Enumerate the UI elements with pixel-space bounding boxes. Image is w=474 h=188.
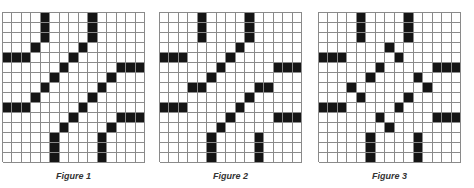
empty-cell: [347, 153, 356, 163]
filled-cell: [366, 143, 375, 153]
empty-cell: [442, 143, 451, 153]
empty-cell: [12, 83, 21, 93]
empty-cell: [385, 33, 394, 43]
empty-cell: [236, 83, 245, 93]
empty-cell: [264, 33, 273, 43]
empty-cell: [136, 23, 145, 33]
empty-cell: [236, 53, 245, 63]
empty-cell: [376, 73, 385, 83]
empty-cell: [395, 63, 404, 73]
empty-cell: [347, 93, 356, 103]
empty-cell: [31, 63, 40, 73]
empty-cell: [136, 123, 145, 133]
empty-cell: [3, 63, 12, 73]
empty-cell: [357, 53, 366, 63]
filled-cell: [3, 103, 12, 113]
empty-cell: [433, 153, 442, 163]
empty-cell: [366, 93, 375, 103]
empty-cell: [41, 43, 50, 53]
empty-cell: [22, 153, 31, 163]
empty-cell: [376, 123, 385, 133]
empty-cell: [274, 123, 283, 133]
filled-cell: [414, 153, 423, 163]
filled-cell: [283, 63, 292, 73]
empty-cell: [293, 23, 302, 33]
empty-cell: [255, 103, 264, 113]
empty-cell: [169, 43, 178, 53]
filled-cell: [347, 83, 356, 93]
filled-cell: [50, 73, 59, 83]
empty-cell: [245, 83, 254, 93]
filled-cell: [319, 53, 328, 63]
empty-cell: [160, 13, 169, 23]
empty-cell: [245, 143, 254, 153]
filled-cell: [357, 93, 366, 103]
empty-cell: [404, 153, 413, 163]
filled-cell: [452, 63, 461, 73]
empty-cell: [264, 153, 273, 163]
empty-cell: [22, 13, 31, 23]
empty-cell: [31, 33, 40, 43]
empty-cell: [179, 33, 188, 43]
empty-cell: [236, 123, 245, 133]
empty-cell: [136, 53, 145, 63]
empty-cell: [207, 113, 216, 123]
empty-cell: [264, 123, 273, 133]
filled-cell: [50, 133, 59, 143]
filled-cell: [160, 103, 169, 113]
empty-cell: [226, 133, 235, 143]
empty-cell: [188, 123, 197, 133]
filled-cell: [22, 103, 31, 113]
empty-cell: [126, 153, 135, 163]
empty-cell: [117, 43, 126, 53]
empty-cell: [41, 103, 50, 113]
empty-cell: [107, 53, 116, 63]
empty-cell: [79, 13, 88, 23]
empty-cell: [245, 123, 254, 133]
empty-cell: [79, 63, 88, 73]
empty-cell: [328, 123, 337, 133]
empty-cell: [433, 143, 442, 153]
empty-cell: [293, 133, 302, 143]
filled-cell: [198, 33, 207, 43]
empty-cell: [169, 113, 178, 123]
empty-cell: [442, 103, 451, 113]
empty-cell: [60, 53, 69, 63]
empty-cell: [12, 73, 21, 83]
empty-cell: [283, 83, 292, 93]
empty-cell: [347, 23, 356, 33]
figure-3-caption: Figure 3: [318, 171, 461, 181]
empty-cell: [126, 93, 135, 103]
empty-cell: [328, 93, 337, 103]
filled-cell: [366, 133, 375, 143]
filled-cell: [207, 153, 216, 163]
empty-cell: [338, 113, 347, 123]
filled-cell: [274, 63, 283, 73]
empty-cell: [338, 93, 347, 103]
empty-cell: [226, 63, 235, 73]
empty-cell: [31, 153, 40, 163]
empty-cell: [31, 73, 40, 83]
filled-cell: [69, 53, 78, 63]
empty-cell: [255, 113, 264, 123]
figure-3: Figure 3: [318, 12, 461, 181]
empty-cell: [274, 93, 283, 103]
empty-cell: [88, 143, 97, 153]
empty-cell: [274, 73, 283, 83]
empty-cell: [217, 133, 226, 143]
empty-cell: [274, 13, 283, 23]
empty-cell: [136, 93, 145, 103]
empty-cell: [404, 63, 413, 73]
filled-cell: [357, 13, 366, 23]
empty-cell: [245, 53, 254, 63]
empty-cell: [236, 133, 245, 143]
empty-cell: [169, 63, 178, 73]
empty-cell: [442, 153, 451, 163]
empty-cell: [22, 143, 31, 153]
empty-cell: [255, 53, 264, 63]
empty-cell: [357, 43, 366, 53]
filled-cell: [385, 123, 394, 133]
empty-cell: [3, 93, 12, 103]
filled-cell: [98, 133, 107, 143]
grid-figure-1: [2, 12, 145, 162]
